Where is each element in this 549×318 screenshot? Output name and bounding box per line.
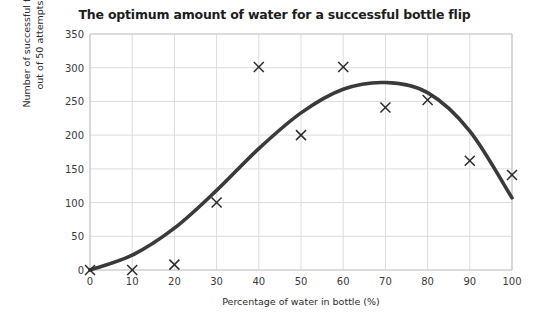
x-tick-label: 50 bbox=[295, 276, 308, 287]
y-axis-title-line1: Number of successful flips bbox=[20, 0, 33, 135]
y-tick-label: 300 bbox=[65, 62, 84, 73]
x-tick-label: 60 bbox=[337, 276, 350, 287]
plot-area: 050100150200250300350 010203040506070809… bbox=[90, 34, 512, 270]
y-tick-label: 50 bbox=[71, 231, 84, 242]
x-tick-label: 30 bbox=[210, 276, 223, 287]
y-axis-title: Number of successful flips out of 50 att… bbox=[20, 0, 50, 135]
x-tick-label: 70 bbox=[379, 276, 392, 287]
chart-figure: The optimum amount of water for a succes… bbox=[0, 0, 549, 318]
x-tick-label: 20 bbox=[168, 276, 181, 287]
x-tick-label: 0 bbox=[87, 276, 93, 287]
x-tick-label: 90 bbox=[463, 276, 476, 287]
y-tick-label: 200 bbox=[65, 130, 84, 141]
chart-canvas bbox=[90, 34, 512, 270]
y-tick-label: 0 bbox=[78, 265, 84, 276]
y-tick-label: 150 bbox=[65, 163, 84, 174]
x-axis-title: Percentage of water in bottle (%) bbox=[90, 296, 512, 307]
y-tick-label: 100 bbox=[65, 197, 84, 208]
chart-title: The optimum amount of water for a succes… bbox=[0, 7, 549, 22]
x-tick-label: 10 bbox=[126, 276, 139, 287]
y-axis-title-line2: out of 50 attempts bbox=[33, 0, 46, 135]
y-tick-label: 250 bbox=[65, 96, 84, 107]
x-tick-label: 40 bbox=[252, 276, 265, 287]
y-tick-label: 350 bbox=[65, 29, 84, 40]
gridlines bbox=[90, 34, 512, 270]
x-tick-label: 100 bbox=[502, 276, 521, 287]
x-tick-label: 80 bbox=[421, 276, 434, 287]
